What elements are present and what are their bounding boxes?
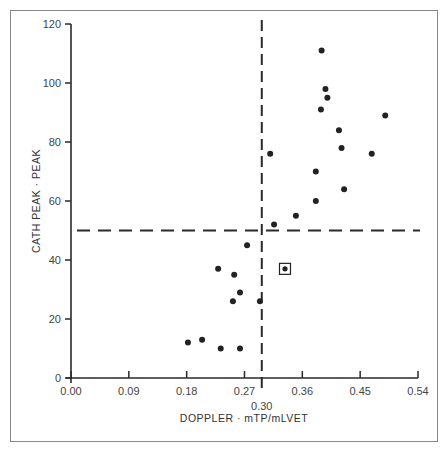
x-tick-label: 0.18 xyxy=(176,385,197,397)
data-point xyxy=(336,127,342,133)
scatter-chart: 0204060801001200.000.090.180.270.360.450… xyxy=(0,0,448,454)
threshold-label: 0.30 xyxy=(251,400,272,412)
y-tick-label: 100 xyxy=(43,77,61,89)
data-point xyxy=(218,346,224,352)
data-points xyxy=(185,48,388,352)
data-point xyxy=(237,289,243,295)
axes: 0204060801001200.000.090.180.270.360.450… xyxy=(43,18,429,397)
data-point xyxy=(313,198,319,204)
data-point xyxy=(231,272,237,278)
data-point xyxy=(230,298,236,304)
data-point xyxy=(318,107,324,113)
data-point xyxy=(185,340,191,346)
data-point xyxy=(313,169,319,175)
threshold-lines: 0.30 xyxy=(77,20,420,412)
data-point xyxy=(369,151,375,157)
data-point xyxy=(271,222,277,228)
x-tick-label: 0.00 xyxy=(60,385,81,397)
y-tick-label: 0 xyxy=(55,372,61,384)
x-axis-title: DOPPLER · mTP/mLVET xyxy=(180,412,308,424)
x-tick-label: 0.54 xyxy=(407,385,428,397)
x-tick-label: 0.27 xyxy=(234,385,255,397)
y-tick-label: 80 xyxy=(49,136,61,148)
data-point xyxy=(322,86,328,92)
x-tick-label: 0.45 xyxy=(349,385,370,397)
data-point xyxy=(215,266,221,272)
data-point xyxy=(339,145,345,151)
data-point xyxy=(267,151,273,157)
data-point xyxy=(382,112,388,118)
data-point xyxy=(319,48,325,54)
y-tick-label: 60 xyxy=(49,195,61,207)
y-tick-label: 120 xyxy=(43,18,61,30)
data-point xyxy=(257,298,263,304)
data-point xyxy=(341,186,347,192)
y-tick-label: 20 xyxy=(49,313,61,325)
y-tick-label: 40 xyxy=(49,254,61,266)
data-point xyxy=(244,242,250,248)
data-point xyxy=(324,95,330,101)
x-tick-label: 0.09 xyxy=(118,385,139,397)
x-tick-label: 0.36 xyxy=(292,385,313,397)
data-point xyxy=(293,213,299,219)
highlighted-data-point xyxy=(282,266,287,271)
y-axis-title: CATH PEAK · PEAK xyxy=(30,149,42,253)
data-point xyxy=(237,346,243,352)
data-point xyxy=(199,337,205,343)
